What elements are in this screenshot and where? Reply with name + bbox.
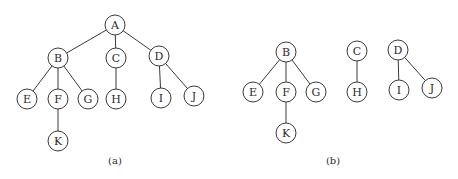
node-e: E (17, 89, 37, 109)
edge-d-j (405, 57, 426, 80)
panel-caption: (b) (326, 155, 340, 166)
node-k: K (48, 131, 68, 151)
node-label: E (249, 86, 257, 99)
edge-d-i (159, 66, 160, 88)
node-e: E (243, 82, 263, 102)
node-f: F (276, 82, 296, 102)
node-h: H (347, 82, 367, 102)
node-label: B (282, 46, 290, 59)
node-label: H (111, 93, 121, 106)
node-k: K (276, 123, 296, 143)
node-h: H (106, 89, 126, 109)
node-label: C (112, 52, 120, 65)
node-c: C (347, 41, 367, 61)
node-f: F (48, 89, 68, 109)
node-label: F (282, 86, 290, 99)
node-c: C (106, 48, 126, 68)
node-b: B (276, 42, 296, 62)
node-label: K (54, 135, 63, 148)
node-label: I (397, 84, 401, 97)
node-label: D (155, 50, 164, 63)
node-g: G (306, 82, 326, 102)
panel-a-tree: ABCDEFGHIJK(a) (17, 15, 204, 166)
edge-b-e (33, 66, 52, 91)
panel-b-forest: BEFGKCHDIJ(b) (243, 40, 442, 166)
node-label: E (23, 93, 31, 106)
node-label: G (84, 93, 93, 106)
edge-d-j (166, 64, 188, 89)
edge-b-g (64, 66, 82, 91)
node-j: J (184, 86, 204, 106)
node-d: D (388, 40, 408, 60)
node-label: B (54, 52, 62, 65)
node-d: D (149, 46, 169, 66)
node-label: K (282, 127, 291, 140)
node-label: C (353, 45, 361, 58)
node-label: J (429, 82, 434, 95)
node-label: F (54, 93, 62, 106)
node-label: A (110, 19, 120, 32)
node-label: J (191, 90, 196, 103)
edge-a-d (123, 31, 151, 50)
edge-b-e (259, 60, 279, 85)
node-i: I (151, 88, 171, 108)
node-label: G (312, 86, 321, 99)
edge-b-g (292, 60, 310, 84)
tree-diagram: ABCDEFGHIJK(a) BEFGKCHDIJ(b) (0, 0, 458, 179)
node-a: A (105, 15, 125, 35)
edge-a-b (67, 30, 107, 53)
node-g: G (78, 89, 98, 109)
node-label: H (352, 86, 362, 99)
node-b: B (48, 48, 68, 68)
node-label: I (159, 92, 163, 105)
node-j: J (422, 78, 442, 98)
panel-caption: (a) (108, 155, 122, 166)
node-label: D (394, 44, 403, 57)
edge-d-i (398, 60, 399, 80)
node-i: I (389, 80, 409, 100)
